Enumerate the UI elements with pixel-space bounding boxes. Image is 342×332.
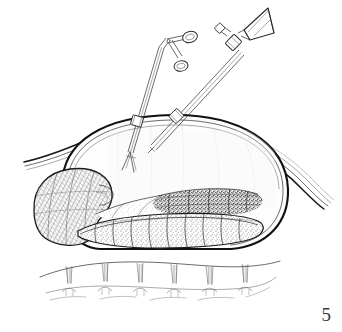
figure-number: 5 — [322, 305, 332, 324]
forceps-hinge — [167, 40, 170, 43]
figure-container: 5 — [0, 0, 342, 332]
surgical-illustration — [0, 0, 342, 332]
